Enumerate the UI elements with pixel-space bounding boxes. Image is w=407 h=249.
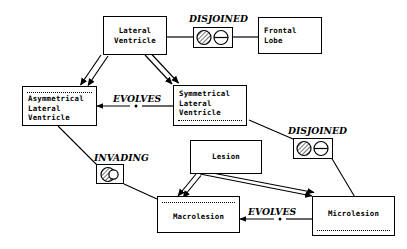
disjoined-circles-icon[interactable] bbox=[193, 27, 233, 48]
node-microlesion-partition-line bbox=[317, 230, 390, 231]
invading-circles-icon[interactable] bbox=[96, 164, 124, 184]
node-lesion-label: Lesion bbox=[191, 152, 261, 162]
node-frontal-lobe-label: Frontal Lobe bbox=[259, 26, 321, 45]
node-macrolesion-partition-line bbox=[162, 202, 235, 203]
edge-isa-lesion-microlesion bbox=[200, 171, 314, 196]
evolves-bottom-dot-marker bbox=[279, 218, 282, 221]
node-microlesion-label: Microlesion bbox=[313, 209, 394, 219]
node-macrolesion[interactable]: Macrolesion bbox=[157, 196, 240, 233]
node-asymmetrical-partition-line bbox=[27, 92, 92, 93]
diagram-canvas: Lateral Ventricle Frontal Lobe Asymmetri… bbox=[0, 0, 407, 249]
node-symmetrical-lateral-ventricle[interactable]: Symmetrical Lateral Ventricle bbox=[173, 85, 247, 126]
node-microlesion[interactable]: Microlesion bbox=[312, 196, 395, 236]
node-frontal-lobe[interactable]: Frontal Lobe bbox=[258, 17, 322, 54]
relation-label-disjoined-top: DISJOINED bbox=[189, 13, 248, 24]
edge-isa-lateral-ventricle-symmetrical bbox=[145, 54, 179, 85]
node-symmetrical-lateral-ventricle-label: Symmetrical Lateral Ventricle bbox=[174, 89, 246, 118]
node-lateral-ventricle[interactable]: Lateral Ventricle bbox=[103, 16, 167, 55]
relation-label-evolves-top: EVOLVES bbox=[113, 93, 161, 104]
node-asymmetrical-lateral-ventricle-label: Asymmetrical Lateral Ventricle bbox=[23, 94, 96, 123]
node-asymmetrical-lateral-ventricle[interactable]: Asymmetrical Lateral Ventricle bbox=[22, 86, 97, 126]
disjoined-circles-icon[interactable] bbox=[293, 138, 333, 159]
evolves-top-dot-marker bbox=[135, 105, 138, 108]
edge-evolves-microlesion-to-macrolesion bbox=[240, 218, 312, 221]
edge-isa-lateral-ventricle-asymmetrical bbox=[81, 55, 109, 86]
node-lateral-ventricle-label: Lateral Ventricle bbox=[104, 26, 166, 45]
relation-label-invading: INVADING bbox=[94, 152, 149, 163]
node-symmetrical-partition-line bbox=[178, 120, 242, 121]
node-macrolesion-label: Macrolesion bbox=[158, 212, 239, 222]
relation-label-disjoined-right: DISJOINED bbox=[288, 125, 347, 136]
edge-isa-lesion-macrolesion bbox=[178, 174, 201, 198]
relation-label-evolves-bottom: EVOLVES bbox=[248, 206, 296, 217]
node-lesion[interactable]: Lesion bbox=[190, 140, 262, 174]
edge-evolves-symmetrical-to-asymmetrical bbox=[97, 105, 173, 108]
